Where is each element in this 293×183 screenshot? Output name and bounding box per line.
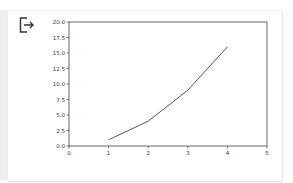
x-tick-label: 3 [186, 150, 190, 156]
x-tick-label: 1 [107, 150, 111, 156]
x-tick-label: 0 [67, 150, 71, 156]
x-tick-label: 4 [226, 150, 230, 156]
y-tick-label: 2.5 [56, 128, 65, 134]
x-tick-label: 2 [146, 150, 150, 156]
y-tick-label: 0.0 [56, 143, 65, 149]
y-tick-label: 17.5 [53, 35, 66, 41]
y-tick-label: 7.5 [56, 97, 65, 103]
line-chart: 0.02.55.07.510.012.515.017.520.0 012345 [0, 0, 293, 183]
y-tick-label: 5.0 [56, 112, 65, 118]
y-tick-label: 12.5 [53, 66, 66, 72]
y-tick-label: 15.0 [53, 50, 66, 56]
data-line [109, 47, 228, 140]
y-axis: 0.02.55.07.510.012.515.017.520.0 [53, 19, 69, 149]
plot-frame [69, 22, 267, 146]
y-tick-label: 20.0 [53, 19, 66, 25]
x-axis: 012345 [67, 146, 269, 156]
x-tick-label: 5 [265, 150, 269, 156]
y-tick-label: 10.0 [53, 81, 66, 87]
